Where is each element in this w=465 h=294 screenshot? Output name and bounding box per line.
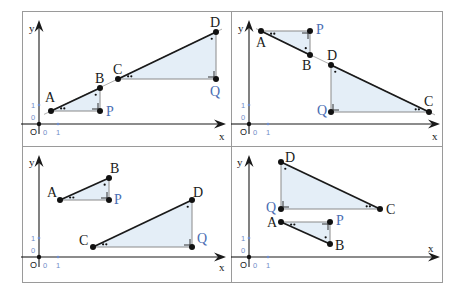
point-c (377, 206, 383, 212)
point-label-p: P (114, 192, 122, 207)
point-label-d: D (327, 48, 337, 63)
point-label-b: B (95, 71, 104, 86)
point-p (97, 108, 103, 114)
point-label-q: Q (317, 103, 327, 118)
y-axis-label: y (238, 22, 244, 34)
y-one-tick-label: 1 (31, 234, 35, 243)
y-zero-tick-label: 0 (31, 246, 35, 255)
y-unit-tick (248, 104, 251, 107)
point-label-c: C (424, 94, 433, 109)
angle-dot (130, 75, 132, 77)
y-axis-label: y (29, 22, 35, 34)
point-label-a: A (47, 185, 58, 200)
y-one-tick-label: 1 (241, 234, 245, 243)
panel-bottom-right: xyO0011DCQABP (231, 150, 440, 270)
point-q (189, 244, 195, 250)
panel-bottom-left: xyO0011ABPCDQ (21, 155, 226, 273)
angle-dot (63, 107, 65, 109)
point-p (106, 197, 112, 203)
angle-dot (284, 168, 286, 170)
origin-label: O (240, 260, 247, 270)
point-a (258, 28, 264, 34)
point-q (278, 206, 284, 212)
x-one-tick-label: 1 (56, 128, 60, 137)
point-a (57, 197, 63, 203)
point-label-p: P (316, 22, 324, 37)
angle-dot (72, 196, 74, 198)
right-triangle: ABP (47, 161, 122, 207)
angle-dot (418, 108, 420, 110)
origin-point (247, 255, 251, 259)
angle-dot (69, 196, 71, 198)
x-one-tick-label: 1 (266, 128, 270, 137)
point-label-p: P (336, 213, 344, 228)
x-unit-tick (267, 256, 270, 259)
point-p (307, 28, 313, 34)
x-axis-label: x (428, 242, 434, 254)
x-unit-tick (267, 123, 270, 126)
angle-dot (187, 206, 189, 208)
point-label-b: B (110, 161, 119, 176)
point-label-a: A (45, 90, 56, 105)
panel-top-right: xyO0011ABPDCQ (231, 20, 440, 142)
x-zero-tick-label: 0 (43, 261, 47, 270)
point-b (327, 241, 333, 247)
point-q (328, 109, 334, 115)
right-triangle: ABP (45, 71, 114, 119)
x-one-tick-label: 1 (56, 261, 60, 270)
angle-dot (60, 107, 62, 109)
panel-top-left: xyO0011ABPCDQ (21, 15, 226, 142)
angle-dot (270, 33, 272, 35)
angle-dot (325, 236, 327, 238)
angle-dot (104, 184, 106, 186)
point-label-d: D (285, 150, 295, 165)
angle-dot (290, 223, 292, 225)
point-label-q: Q (197, 231, 207, 246)
y-one-tick-label: 1 (241, 101, 245, 110)
angle-dot (127, 75, 129, 77)
x-axis-label: x (432, 130, 438, 142)
angle-dot (415, 108, 417, 110)
point-label-c: C (386, 202, 395, 217)
y-unit-tick (38, 237, 41, 240)
x-axis-label: x (219, 261, 225, 273)
x-axis-label: x (219, 130, 225, 142)
angle-dot (334, 71, 336, 73)
point-label-c: C (79, 233, 88, 248)
x-unit-tick (57, 256, 60, 259)
origin-point (37, 122, 41, 126)
angle-dot (366, 205, 368, 207)
x-unit-tick (57, 123, 60, 126)
y-zero-tick-label: 0 (31, 113, 35, 122)
angle-dot (211, 38, 213, 40)
angle-dot (305, 47, 307, 49)
origin-label: O (240, 127, 247, 137)
origin-point (247, 122, 251, 126)
y-unit-tick (38, 104, 41, 107)
point-label-q: Q (266, 200, 276, 215)
angle-dot (273, 33, 275, 35)
angle-dot (369, 205, 371, 207)
y-one-tick-label: 1 (31, 101, 35, 110)
point-q (213, 76, 219, 82)
x-one-tick-label: 1 (266, 261, 270, 270)
point-c (426, 109, 432, 115)
angle-dot (95, 94, 97, 96)
y-zero-tick-label: 0 (241, 113, 245, 122)
point-label-a: A (256, 35, 267, 50)
point-label-p: P (106, 104, 114, 119)
right-triangle: ABP (256, 22, 324, 73)
point-p (327, 219, 333, 225)
y-zero-tick-label: 0 (241, 246, 245, 255)
point-a (48, 108, 54, 114)
point-label-a: A (267, 215, 278, 230)
y-axis-label: y (29, 156, 35, 168)
point-d (278, 159, 284, 165)
origin-label: O (30, 127, 37, 137)
point-label-b: B (302, 58, 311, 73)
y-unit-tick (248, 237, 251, 240)
diagram-canvas: xyO0011ABPCDQxyO0011ABPDCQxyO0011ABPCDQx… (0, 0, 465, 294)
point-label-q: Q (210, 84, 220, 99)
right-triangle: ABP (267, 213, 344, 253)
x-zero-tick-label: 0 (43, 128, 47, 137)
